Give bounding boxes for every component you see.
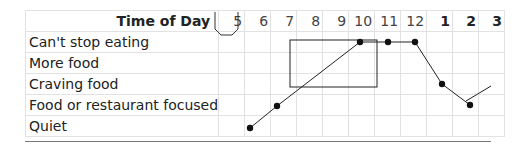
row-more-food: More food xyxy=(26,53,505,74)
row-label: Craving food xyxy=(26,74,219,95)
row-quiet: Quiet xyxy=(26,116,505,137)
hour-10: 10 xyxy=(349,11,375,32)
hour-6: 6 xyxy=(245,11,271,32)
hour-8: 8 xyxy=(297,11,323,32)
hour-12: 12 xyxy=(401,11,427,32)
row-label: More food xyxy=(26,53,219,74)
bottom-rule xyxy=(25,141,491,142)
row-craving-food: Craving food xyxy=(26,74,505,95)
row-food-focused: Food or restaurant focused xyxy=(26,95,505,116)
row-cant-stop-eating: Can't stop eating xyxy=(26,32,505,53)
hour-2: 2 xyxy=(453,11,479,32)
header-label: Time of Day xyxy=(26,11,219,32)
time-of-day-grid: Time of Day 5 6 7 8 9 10 11 12 1 2 3 Can… xyxy=(25,10,505,137)
row-label: Food or restaurant focused xyxy=(26,95,219,116)
header-row: Time of Day 5 6 7 8 9 10 11 12 1 2 3 xyxy=(26,11,505,32)
hour-5: 5 xyxy=(219,11,245,32)
hour-11: 11 xyxy=(375,11,401,32)
row-label: Can't stop eating xyxy=(26,32,219,53)
hour-7: 7 xyxy=(271,11,297,32)
hour-3: 3 xyxy=(479,11,505,32)
hour-9: 9 xyxy=(323,11,349,32)
hour-1: 1 xyxy=(427,11,453,32)
row-label: Quiet xyxy=(26,116,219,137)
